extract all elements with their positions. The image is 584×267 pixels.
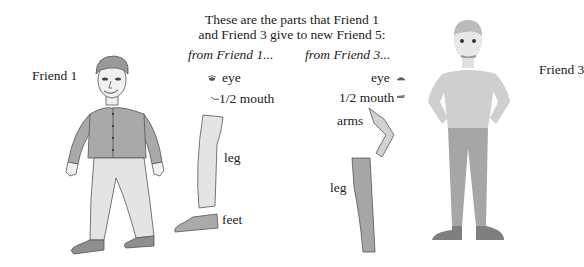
- friend3-label: Friend 3: [539, 62, 584, 78]
- eye-icon: [396, 75, 406, 81]
- column-heading-friend3: from Friend 3...: [305, 47, 390, 63]
- friend3-figure: [424, 18, 514, 248]
- part-label-leg-friend3: leg: [330, 180, 347, 196]
- eye-icon: [207, 74, 217, 82]
- part-label-leg-friend1: leg: [224, 150, 241, 166]
- leg-icon: [193, 114, 228, 210]
- part-label-half-mouth-friend1: 1/2 mouth: [219, 91, 274, 107]
- half-mouth-icon: [396, 94, 406, 100]
- title-line-2: and Friend 3 give to new Friend 5:: [185, 27, 399, 42]
- title-line-1: These are the parts that Friend 1: [185, 12, 399, 27]
- part-label-eye-friend1: eye: [222, 70, 241, 86]
- part-label-half-mouth-friend3: 1/2 mouth: [339, 90, 394, 106]
- shoe-icon: [173, 212, 221, 234]
- diagram-title: These are the parts that Friend 1 and Fr…: [185, 12, 399, 42]
- part-label-eye-friend3: eye: [371, 70, 390, 86]
- leg-icon: [350, 157, 380, 257]
- column-heading-friend1: from Friend 1...: [188, 47, 273, 63]
- friend1-figure: [60, 50, 170, 265]
- part-label-arms-friend3: arms: [337, 113, 363, 129]
- part-label-feet-friend1: feet: [222, 212, 242, 228]
